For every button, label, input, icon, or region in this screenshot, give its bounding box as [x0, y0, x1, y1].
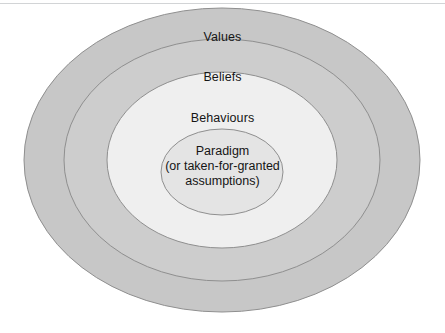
core-subtitle-line-1: (or taken-for-granted [0, 159, 445, 174]
ring-label-beliefs: Beliefs [0, 70, 445, 84]
core-label-group: Paradigm (or taken-for-granted assumptio… [0, 144, 445, 189]
ring-label-behaviours: Behaviours [0, 111, 445, 125]
core-subtitle-line-2: assumptions) [0, 174, 445, 189]
core-title: Paradigm [0, 144, 445, 159]
diagram-canvas: Values Beliefs Behaviours Paradigm (or t… [0, 0, 445, 333]
ring-label-values: Values [0, 30, 445, 44]
